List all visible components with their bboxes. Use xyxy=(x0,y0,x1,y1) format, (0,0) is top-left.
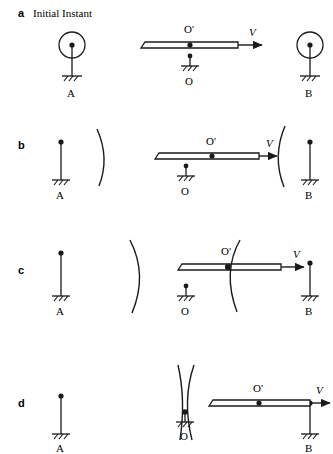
panel-b-label-O: O xyxy=(181,186,189,197)
physics-figure: a Initial Instant A B O' O V b A B O' O … xyxy=(0,0,333,454)
panel-b-point-Oprime xyxy=(209,153,214,158)
panel-d-wavefront-right xyxy=(187,365,194,440)
panel-d-pivot-O xyxy=(176,409,194,427)
panel-a-label-V: V xyxy=(249,27,256,38)
panel-c-post-A xyxy=(52,250,70,301)
panel-a-post-A xyxy=(59,32,85,81)
panel-a-post-B xyxy=(297,32,323,81)
panel-d-point-Oprime xyxy=(256,400,261,405)
panel-c-pivot-O xyxy=(177,284,195,301)
panel-d-wavefront-left xyxy=(178,365,183,440)
panel-b-label-A: A xyxy=(56,190,64,201)
panel-d-label-O: O xyxy=(180,431,188,442)
panel-b-label-B: B xyxy=(305,190,312,201)
panel-a-label-O: O xyxy=(185,76,193,87)
panel-d-label-A: A xyxy=(56,443,64,454)
panel-c-label-A: A xyxy=(56,306,64,317)
panel-c-label-Oprime: O' xyxy=(221,246,231,257)
panel-c-label-B: B xyxy=(305,306,312,317)
figure-drawing-layer xyxy=(0,0,333,454)
panel-a-label-B: B xyxy=(305,88,312,99)
panel-b-label-V: V xyxy=(266,138,273,149)
panel-d-post-A xyxy=(52,393,70,439)
panel-letter-c: c xyxy=(18,265,24,276)
panel-letter-a: a xyxy=(18,8,24,19)
panel-c-wavefront-left xyxy=(130,240,140,313)
panel-b-graphics xyxy=(52,126,319,187)
panel-d-label-V: V xyxy=(316,385,323,396)
panel-caption-a: Initial Instant xyxy=(33,8,92,19)
panel-b-wavefront-left xyxy=(97,129,104,186)
panel-a-label-Oprime: O' xyxy=(184,24,194,35)
panel-c-label-O: O xyxy=(181,306,189,317)
panel-a-point-Oprime xyxy=(187,42,192,47)
panel-b-pivot-O xyxy=(177,164,195,181)
panel-c-point-Oprime xyxy=(225,264,231,270)
panel-b-wavefront-right xyxy=(278,126,285,187)
panel-c-graphics xyxy=(52,240,319,313)
panel-b-post-A xyxy=(52,139,70,185)
panel-letter-d: d xyxy=(18,398,25,409)
panel-d-label-B: B xyxy=(305,443,312,454)
panel-c-label-V: V xyxy=(293,249,300,260)
panel-a-graphics xyxy=(59,32,323,81)
panel-d-graphics xyxy=(52,365,330,440)
panel-d-label-Oprime: O' xyxy=(253,383,263,394)
panel-a-pivot-O xyxy=(181,54,199,71)
panel-b-post-B xyxy=(301,139,319,185)
panel-b-label-Oprime: O' xyxy=(206,136,216,147)
panel-b-bar xyxy=(155,153,259,159)
panel-letter-b: b xyxy=(18,140,25,151)
panel-c-wavefront-right xyxy=(230,240,240,312)
panel-a-label-A: A xyxy=(67,88,75,99)
